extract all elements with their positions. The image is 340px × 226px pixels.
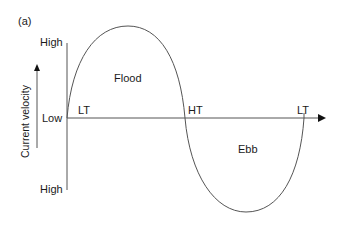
velocity-arrow-up-icon [34,64,40,71]
marker-lt-end: LT [297,105,309,116]
marker-ht: HT [188,105,203,116]
time-axis-arrow-icon [318,114,326,122]
y-axis-title: Current velocity [19,85,31,158]
ebb-label: Ebb [238,144,258,155]
marker-lt-start: LT [78,105,90,116]
tick-high-bottom: High [40,184,63,195]
flood-label: Flood [114,73,142,84]
panel-label: (a) [18,16,31,27]
tick-low: Low [42,113,62,124]
ebb-curve [185,113,304,212]
tick-high-top: High [40,37,63,48]
